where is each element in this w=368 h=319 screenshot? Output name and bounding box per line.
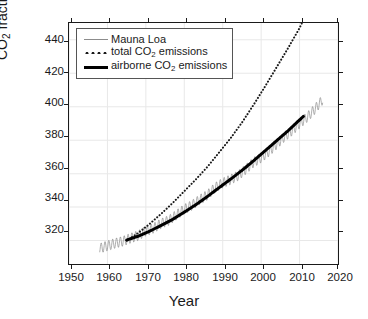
legend-item-airborne-emissions: airborne CO2 emissions [81, 60, 228, 74]
x-tick-1950 [71, 264, 72, 269]
y-tick-420 [64, 72, 69, 73]
legend-item-total-emissions: total CO2 emissions [81, 46, 228, 60]
co2-chart-figure: CO2 fraction (ppmv) 440 420 400 380 360 … [0, 0, 368, 319]
x-tick-1980 [186, 264, 187, 269]
x-tick-top-2020 [337, 18, 338, 23]
x-tick-top-1960 [109, 18, 110, 23]
x-tick-1990 [225, 264, 226, 269]
y-tick-label-320: 320 [24, 224, 64, 236]
y-tick-right-400 [338, 104, 343, 105]
y-axis-title-subscript: 2 [1, 33, 12, 39]
y-tick-label-420: 420 [24, 66, 64, 78]
y-tick-right-440 [338, 41, 343, 42]
legend-dotted-line-icon [81, 46, 111, 60]
x-tick-top-2000 [263, 18, 264, 23]
y-tick-right-380 [338, 136, 343, 137]
x-tick-2000 [263, 264, 264, 269]
y-tick-right-360 [338, 168, 343, 169]
y-tick-380 [64, 136, 69, 137]
x-tick-top-1990 [225, 18, 226, 23]
y-tick-right-320 [338, 231, 343, 232]
x-tick-2010 [302, 264, 303, 269]
x-tick-1970 [148, 264, 149, 269]
x-tick-1960 [109, 264, 110, 269]
y-tick-label-400: 400 [24, 97, 64, 109]
y-axis-title-pre: CO [0, 39, 10, 60]
y-tick-label-360: 360 [24, 161, 64, 173]
x-tick-top-2010 [302, 18, 303, 23]
x-tick-label-2020: 2020 [317, 272, 363, 284]
legend-label-airborne-emissions: airborne CO2 emissions [111, 60, 227, 74]
chart-legend: Mauna Loa total CO2 emissions airborne C… [76, 28, 233, 79]
y-tick-label-440: 440 [24, 34, 64, 46]
x-tick-2020 [337, 264, 338, 269]
legend-label-total-emissions: total CO2 emissions [111, 46, 208, 60]
legend-thick-line-icon [81, 60, 111, 74]
y-tick-440 [64, 41, 69, 42]
y-axis-title: CO2 fraction (ppmv) [0, 0, 12, 60]
legend-thin-line-icon [81, 32, 111, 46]
y-axis-title-post: fraction (ppmv) [0, 0, 10, 33]
legend-item-mauna-loa: Mauna Loa [81, 32, 228, 46]
y-tick-label-380: 380 [24, 129, 64, 141]
y-tick-340 [64, 200, 69, 201]
y-tick-right-340 [338, 200, 343, 201]
y-tick-right-420 [338, 72, 343, 73]
y-tick-400 [64, 104, 69, 105]
x-tick-top-1970 [148, 18, 149, 23]
y-tick-360 [64, 168, 69, 169]
x-axis-title: Year [0, 292, 368, 309]
x-tick-top-1950 [71, 18, 72, 23]
legend-label-mauna-loa: Mauna Loa [111, 34, 166, 45]
y-tick-label-340: 340 [24, 192, 64, 204]
y-tick-320 [64, 231, 69, 232]
x-tick-top-1980 [186, 18, 187, 23]
